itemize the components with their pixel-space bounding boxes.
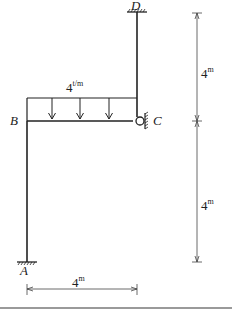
dim-unit: m xyxy=(79,274,85,283)
node-label-c: C xyxy=(153,114,162,127)
dimension-label-lower: 4m xyxy=(201,198,214,212)
load-arrow-icon xyxy=(106,98,113,119)
node-label-b: B xyxy=(10,114,18,127)
dimension-label-horizontal: 4m xyxy=(72,275,85,289)
dim-unit: m xyxy=(208,197,214,206)
dimension-vertical-lower xyxy=(192,121,202,262)
distributed-load xyxy=(27,98,137,121)
frame-diagram xyxy=(0,0,232,313)
load-arrow-icon xyxy=(77,98,84,119)
node-label-d: D xyxy=(131,0,140,12)
dimension-label-upper: 4m xyxy=(201,66,214,80)
load-unit: t/m xyxy=(73,79,84,88)
node-label-a: A xyxy=(20,264,28,277)
load-arrow-icon xyxy=(49,98,56,119)
load-label: 4t/m xyxy=(66,80,83,94)
dim-unit: m xyxy=(208,65,214,74)
divider xyxy=(0,307,232,309)
